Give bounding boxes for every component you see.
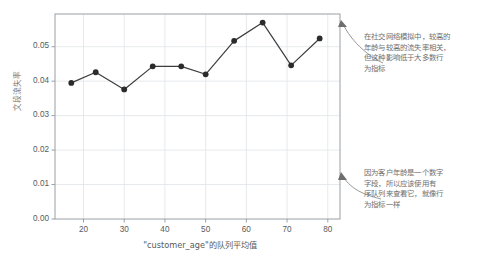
x-tick-label-70: 70 [275,225,299,234]
x-tick-label-80: 80 [316,225,340,234]
y-tick-label-0.05: 0.05 [19,41,49,50]
plot-background [55,14,340,219]
y-tick-marks [52,47,56,219]
data-point [288,62,294,68]
y-tick-label-0.01: 0.01 [19,179,49,188]
data-point [93,69,99,75]
x-tick-label-40: 40 [153,225,177,234]
data-point [231,38,237,44]
annotation-text-age-churn-correlation: 在社交网络模拟中，较高的 年龄与较高的流失率相关， 但这种影响低于大多数行 为指… [364,32,468,74]
data-point [203,71,209,77]
y-tick-label-0.02: 0.02 [19,145,49,154]
x-axis-title: "customer_age"的队列平均值 [60,238,340,250]
data-point [121,87,127,93]
x-tick-label-50: 50 [194,225,218,234]
y-tick-label-0.03: 0.03 [19,110,49,119]
x-tick-marks [84,219,328,223]
annotation-text-numeric-field-ordered-cohorts: 因为客户年龄是一个数字 字段，所以应该使用有 序队列来查看它，就像行 为指标一样 [364,168,468,210]
data-point [150,63,156,69]
data-point [317,36,323,42]
x-tick-label-60: 60 [234,225,258,234]
x-tick-label-20: 20 [72,225,96,234]
y-tick-label-0.04: 0.04 [19,76,49,85]
y-axis-title: 文段流失率 [11,61,22,121]
chart-page: 0.000.010.020.030.040.05 20304050607080 … [0,0,486,258]
data-point [68,80,74,86]
y-tick-label-0.00: 0.00 [19,214,49,223]
data-point [260,20,266,26]
data-point [178,63,184,69]
x-tick-label-30: 30 [112,225,136,234]
